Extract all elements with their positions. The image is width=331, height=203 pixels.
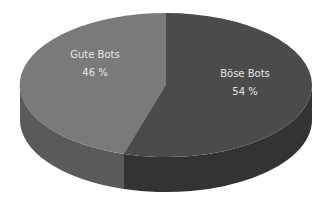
pie-top <box>20 13 312 157</box>
label-gute-bots-name: Gute Bots <box>70 49 119 60</box>
label-bose-bots-value: 54 % <box>232 86 257 97</box>
pie-chart: Gute Bots 46 % Böse Bots 54 % <box>0 0 331 203</box>
label-bose-bots-name: Böse Bots <box>220 68 270 79</box>
label-gute-bots-value: 46 % <box>82 67 107 78</box>
